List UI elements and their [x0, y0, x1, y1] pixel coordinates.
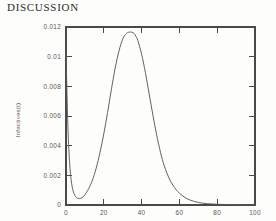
y-axis-ticks — [66, 27, 255, 205]
y-axis-labels: 0.012 0.01 0.008 0.006 0.004 0.002 0 — [44, 23, 62, 208]
x-tick-label: 80 — [213, 209, 221, 216]
x-axis-ticks — [66, 27, 255, 205]
x-axis-labels: 0 20 40 60 80 100 — [64, 209, 261, 216]
x-tick-label: 60 — [176, 209, 184, 216]
plot-frame — [66, 27, 255, 205]
y-tick-label: 0 — [57, 201, 61, 208]
x-tick-label: 0 — [64, 209, 68, 216]
y-tick-label: 0.01 — [47, 53, 61, 60]
x-tick-label: 100 — [249, 209, 261, 216]
chart-figure: 0.012 0.01 0.008 0.006 0.004 0.002 0 Inf… — [0, 16, 276, 221]
page-title: DISCUSSION — [7, 1, 79, 13]
y-tick-label: 0.006 — [44, 112, 62, 119]
y-tick-label: 0.008 — [44, 83, 62, 90]
chart-canvas: 0.012 0.01 0.008 0.006 0.004 0.002 0 Inf… — [0, 16, 276, 221]
x-tick-label: 40 — [138, 209, 146, 216]
y-tick-label: 0.002 — [44, 172, 62, 179]
y-tick-label: 0.012 — [44, 23, 62, 30]
y-axis-title: Infectives(t) — [14, 103, 21, 138]
y-tick-label: 0.004 — [44, 142, 62, 149]
figure-page: DISCUSSION 0.012 — [0, 0, 276, 221]
x-tick-label: 20 — [100, 209, 108, 216]
infectives-curve — [66, 32, 255, 205]
